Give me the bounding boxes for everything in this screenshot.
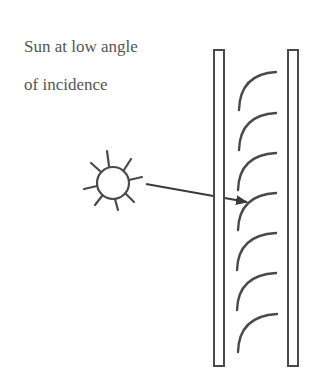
- diagram-canvas: [0, 0, 324, 376]
- sun-icon: [84, 151, 142, 210]
- right-glass-pane: [288, 50, 298, 366]
- louver: [237, 233, 276, 270]
- louver: [238, 153, 276, 190]
- louver: [237, 273, 276, 310]
- louver: [238, 193, 276, 230]
- incident-light-arrow: [146, 184, 247, 202]
- louver: [239, 113, 276, 150]
- louver: [239, 72, 276, 110]
- louver-group: [237, 72, 277, 352]
- louver: [238, 314, 277, 352]
- left-glass-pane: [214, 50, 224, 366]
